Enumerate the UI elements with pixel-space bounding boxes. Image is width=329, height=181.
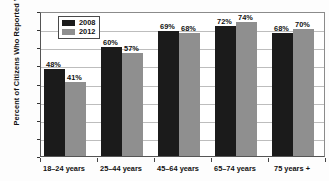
- cropped-title-remnant: [150, 0, 290, 5]
- bar-value-label: 41%: [61, 74, 88, 81]
- bar: [101, 47, 122, 156]
- bar: [65, 82, 86, 156]
- x-axis-tick-label: 65–74 years: [207, 165, 263, 172]
- bar: [122, 53, 143, 156]
- bar: [215, 26, 236, 157]
- bar: [158, 31, 179, 156]
- bar-chart: Percent of Citizens Who Reported Voting …: [0, 0, 329, 181]
- bar-value-label: 68%: [175, 25, 202, 32]
- legend-swatch: [62, 20, 75, 26]
- x-axis-tick-label: 18–24 years: [36, 165, 92, 172]
- bar: [44, 69, 65, 156]
- x-axis-tick-mark: [97, 158, 98, 162]
- bar: [272, 33, 293, 156]
- x-axis-tick-label: 75 years +: [264, 165, 320, 172]
- bar-value-label: 48%: [40, 61, 67, 68]
- x-axis-tick-mark: [325, 158, 326, 162]
- legend-swatch: [62, 29, 75, 35]
- bar: [179, 33, 200, 156]
- x-axis-tick-label: 25–44 years: [93, 165, 149, 172]
- legend-label: 2008: [79, 19, 95, 26]
- bar-value-label: 74%: [232, 14, 259, 21]
- legend-label: 2012: [79, 28, 95, 35]
- y-axis-title: Percent of Citizens Who Reported Voting: [13, 0, 20, 132]
- x-axis-tick-mark: [211, 158, 212, 162]
- legend-entry: 2012: [62, 28, 95, 36]
- x-axis-tick-mark: [154, 158, 155, 162]
- x-axis-tick-mark: [40, 158, 41, 162]
- chart-legend: 20082012: [58, 16, 100, 39]
- bar-value-label: 70%: [289, 21, 316, 28]
- bar: [236, 22, 257, 156]
- x-axis-tick-mark: [268, 158, 269, 162]
- legend-entry: 2008: [62, 19, 95, 27]
- bar: [293, 29, 314, 156]
- bar-value-label: 57%: [118, 45, 145, 52]
- x-axis-tick-label: 45–64 years: [150, 165, 206, 172]
